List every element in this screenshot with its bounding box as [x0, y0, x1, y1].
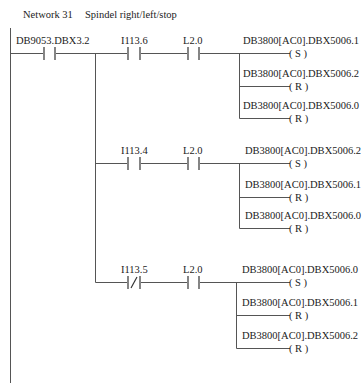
contact-label[interactable]: DB9053.DBX3.2	[16, 35, 90, 47]
coil-reset-icon: ( R )	[289, 81, 308, 93]
contact-label[interactable]: L2.0	[183, 145, 203, 157]
network-number: Network 31	[23, 9, 73, 21]
coil-set-icon: ( S )	[289, 48, 307, 60]
contact-no-icon	[188, 157, 199, 170]
coil-address[interactable]: DB3800[AC0].DBX5006.0	[242, 264, 358, 276]
coil-address[interactable]: DB3800[AC0].DBX5006.2	[243, 68, 359, 80]
coil-set-icon: ( S )	[289, 158, 307, 170]
coil-set-icon: ( S )	[289, 277, 307, 289]
coil-address[interactable]: DB3800[AC0].DBX5006.1	[245, 179, 361, 191]
coil-reset-icon: ( R )	[289, 310, 308, 322]
coil-address[interactable]: DB3800[AC0].DBX5006.2	[245, 145, 361, 157]
contact-label[interactable]: I113.5	[121, 264, 148, 276]
coil-reset-icon: ( R )	[289, 343, 308, 355]
contact-label[interactable]: L2.0	[183, 264, 203, 276]
contact-no-icon	[188, 47, 199, 60]
coil-address[interactable]: DB3800[AC0].DBX5006.1	[242, 297, 358, 309]
contact-no-icon	[128, 157, 140, 170]
network-title: Spindel right/left/stop	[85, 9, 177, 21]
contact-label[interactable]: I113.6	[121, 35, 148, 47]
ladder-wiring	[0, 0, 363, 383]
coil-address[interactable]: DB3800[AC0].DBX5006.2	[242, 330, 358, 342]
coil-reset-icon: ( R )	[289, 223, 308, 235]
coil-address[interactable]: DB3800[AC0].DBX5006.0	[243, 100, 359, 112]
contact-no-icon	[44, 47, 55, 60]
coil-reset-icon: ( R )	[289, 113, 308, 125]
coil-address[interactable]: DB3800[AC0].DBX5006.0	[245, 210, 361, 222]
contact-nc-icon	[128, 276, 140, 289]
contact-label[interactable]: L2.0	[183, 35, 203, 47]
contact-label[interactable]: I113.4	[121, 145, 148, 157]
contact-no-icon	[128, 47, 140, 60]
contact-no-icon	[188, 276, 199, 289]
coil-address[interactable]: DB3800[AC0].DBX5006.1	[243, 35, 359, 47]
coil-reset-icon: ( R )	[289, 192, 308, 204]
